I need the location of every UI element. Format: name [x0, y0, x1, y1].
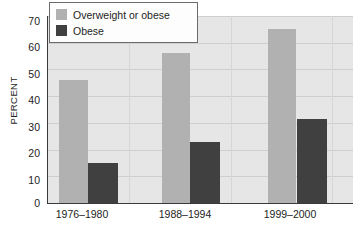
legend-item-obese: Obese — [56, 23, 197, 38]
bar-overweight-1976-1980 — [59, 80, 88, 203]
legend-label-overweight: Overweight or obese — [73, 9, 170, 21]
bar-chart-figure: PERCENT 70 60 50 40 30 20 10 0 — [0, 0, 358, 228]
gridline-50 — [48, 69, 353, 70]
legend-label-obese: Obese — [73, 25, 104, 37]
y-tick-label-50: 50 — [10, 69, 40, 80]
y-tick-label-60: 60 — [10, 42, 40, 53]
y-tick-label-40: 40 — [10, 95, 40, 106]
dark-gray-swatch-icon — [56, 25, 67, 36]
bar-overweight-1988-1994 — [162, 53, 190, 203]
bar-obese-1976-1980 — [88, 163, 118, 203]
vgridline-1 — [129, 16, 130, 203]
y-tick-label-20: 20 — [10, 148, 40, 159]
y-tick-label-0: 0 — [10, 198, 40, 209]
y-tick-label-10: 10 — [10, 175, 40, 186]
gridline-40 — [48, 96, 353, 97]
bar-obese-1999-2000 — [297, 119, 327, 203]
light-gray-swatch-icon — [56, 9, 67, 20]
vgridline-3 — [332, 16, 333, 203]
bar-obese-1988-1994 — [190, 142, 220, 203]
x-tick-label-1976-1980: 1976–1980 — [42, 208, 122, 220]
vgridline-2 — [231, 16, 232, 203]
plot-area — [47, 16, 353, 204]
x-tick-label-1988-1994: 1988–1994 — [145, 208, 225, 220]
chart-legend: Overweight or obese Obese — [49, 2, 198, 43]
x-tick-label-1999-2000: 1999–2000 — [250, 208, 330, 220]
y-tick-label-70: 70 — [10, 16, 40, 27]
legend-item-overweight: Overweight or obese — [56, 7, 197, 22]
plot-inner — [48, 16, 353, 203]
y-tick-label-30: 30 — [10, 122, 40, 133]
bar-overweight-1999-2000 — [268, 29, 296, 203]
